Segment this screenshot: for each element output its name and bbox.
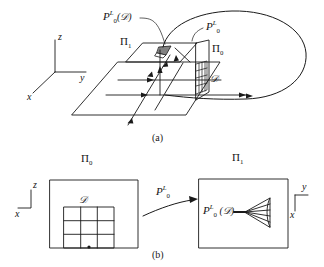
label-image-region-b-sup: L	[210, 203, 214, 210]
label-image-region-a-arg: (𝒟)	[117, 11, 132, 22]
label-map-a-base: P	[206, 20, 213, 32]
label-map-b-base: P	[156, 185, 163, 197]
panel-a: PL0(𝒟) PL0 Π1 Π0 𝒟 z y x (a)	[0, 0, 324, 148]
flow-lines-base	[106, 80, 246, 95]
label-map-b-sub: 0	[167, 192, 170, 199]
label-map-a-sup: L	[213, 19, 217, 26]
image-region-on-pi1	[155, 46, 171, 58]
axis-label-y-a: y	[80, 73, 84, 83]
label-plane-pi0-a-sub: 0	[220, 49, 223, 56]
leader-lines	[140, 18, 203, 44]
caption-a: (a)	[152, 132, 163, 143]
flow-arrowheads	[128, 55, 254, 124]
label-plane-pi0-a-base: Π	[212, 42, 220, 54]
panel-a-drawing	[0, 0, 324, 148]
label-image-region-b-base: P	[203, 204, 210, 216]
panel-b: Π0 Π1 𝒟 PL0 PL0 (𝒟) z x y x (b)	[0, 148, 324, 267]
panel-b-map-arrow	[143, 196, 198, 216]
label-plane-pi1-b: Π1	[232, 152, 243, 166]
axis-label-x-b-right: x	[290, 210, 294, 220]
label-image-region-b: PL0 (𝒟)	[203, 204, 234, 219]
label-plane-pi1-a-base: Π	[120, 35, 128, 47]
axis-label-x-a: x	[27, 92, 31, 102]
label-plane-pi1-b-sub: 1	[240, 158, 243, 165]
panel-b-axes-left	[18, 190, 31, 208]
panel-b-fixed-point-dot	[87, 245, 90, 248]
axes-3d	[33, 40, 86, 93]
domain-region-d	[196, 61, 207, 94]
label-plane-pi0-b-base: Π	[81, 152, 89, 164]
label-plane-pi0-b-sub: 0	[89, 159, 92, 166]
label-map-b: PL0	[156, 185, 170, 200]
label-plane-pi0-b: Π0	[81, 153, 92, 167]
label-image-region-a: PL0(𝒟)	[103, 10, 132, 25]
flow-lines-oblique	[128, 48, 190, 125]
label-image-region-b-arg: (𝒟)	[219, 205, 234, 216]
figure-root: PL0(𝒟) PL0 Π1 Π0 𝒟 z y x (a)	[0, 0, 324, 267]
axis-label-x-b-left: x	[15, 209, 19, 219]
label-image-region-a-base: P	[103, 10, 110, 22]
label-map-b-sup: L	[163, 184, 167, 191]
label-domain-a: 𝒟	[210, 74, 218, 84]
label-plane-pi0-a: Π0	[212, 43, 223, 57]
label-plane-pi1-b-base: Π	[232, 151, 240, 163]
axis-label-y-b: y	[302, 182, 306, 192]
label-domain-b: 𝒟	[79, 195, 87, 205]
label-map-a-sub: 0	[217, 27, 220, 34]
periodic-orbit-loop	[163, 11, 306, 99]
label-image-region-a-sup: L	[110, 9, 114, 16]
base-plane	[72, 62, 220, 115]
label-plane-pi1-a-sub: 1	[128, 42, 131, 49]
axis-label-z-a: z	[58, 32, 62, 42]
panel-b-axes-right	[295, 195, 308, 211]
axis-label-z-b: z	[33, 180, 37, 190]
label-plane-pi1-a: Π1	[120, 36, 131, 50]
caption-b: (b)	[152, 249, 164, 260]
panel-b-plane-pi0-rect	[50, 180, 138, 248]
panel-b-image-fan	[234, 198, 270, 227]
label-map-a: PL0	[206, 20, 220, 35]
panel-b-domain-grid	[64, 207, 114, 248]
